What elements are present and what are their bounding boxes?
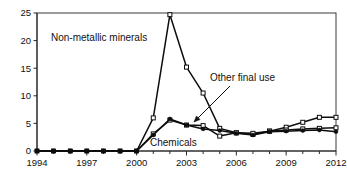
data-point xyxy=(218,134,222,138)
x-tick-label: 2012 xyxy=(325,157,346,168)
data-point xyxy=(317,115,321,119)
data-point xyxy=(317,128,321,132)
x-tick-label: 2003 xyxy=(176,157,197,168)
annotation-label-chemicals: Chemicals xyxy=(150,137,197,148)
data-point xyxy=(185,123,189,127)
chart-canvas: 0510152025 1994199720002003200620092012 … xyxy=(0,0,347,180)
y-tick-label: 0 xyxy=(26,145,31,156)
data-point xyxy=(52,149,56,153)
y-tick-label: 20 xyxy=(20,35,31,46)
data-point xyxy=(118,149,122,153)
annotation-label-other-final-use: Other final use xyxy=(210,72,275,83)
data-point xyxy=(35,149,39,153)
data-point xyxy=(85,149,89,153)
x-tick-label: 2009 xyxy=(276,157,297,168)
data-point xyxy=(251,133,255,137)
annotation-label-non-metallic-minerals: Non-metallic minerals xyxy=(51,32,147,43)
data-point xyxy=(301,120,305,124)
data-point xyxy=(218,129,222,133)
data-point xyxy=(151,116,155,120)
x-tick-label: 1997 xyxy=(76,157,97,168)
y-tick-label: 25 xyxy=(20,7,31,18)
data-point xyxy=(168,13,172,17)
y-tick-label: 15 xyxy=(20,63,31,74)
data-point xyxy=(185,65,189,69)
x-tick-label: 1994 xyxy=(26,157,47,168)
data-point xyxy=(334,126,338,130)
data-point xyxy=(334,130,338,134)
data-point xyxy=(68,149,72,153)
data-point xyxy=(168,117,172,121)
data-point xyxy=(201,91,205,95)
data-point xyxy=(102,149,106,153)
data-point xyxy=(334,115,338,119)
x-tick-label: 2000 xyxy=(126,157,147,168)
data-point xyxy=(268,130,272,134)
data-point xyxy=(301,129,305,133)
data-point xyxy=(135,149,139,153)
data-point xyxy=(284,129,288,133)
y-tick-label: 10 xyxy=(20,90,31,101)
y-tick-label: 5 xyxy=(26,118,31,129)
x-tick-label: 2006 xyxy=(226,157,247,168)
data-point xyxy=(201,127,205,131)
data-point xyxy=(234,131,238,135)
line-chart-figure: 0510152025 1994199720002003200620092012 … xyxy=(0,0,347,180)
